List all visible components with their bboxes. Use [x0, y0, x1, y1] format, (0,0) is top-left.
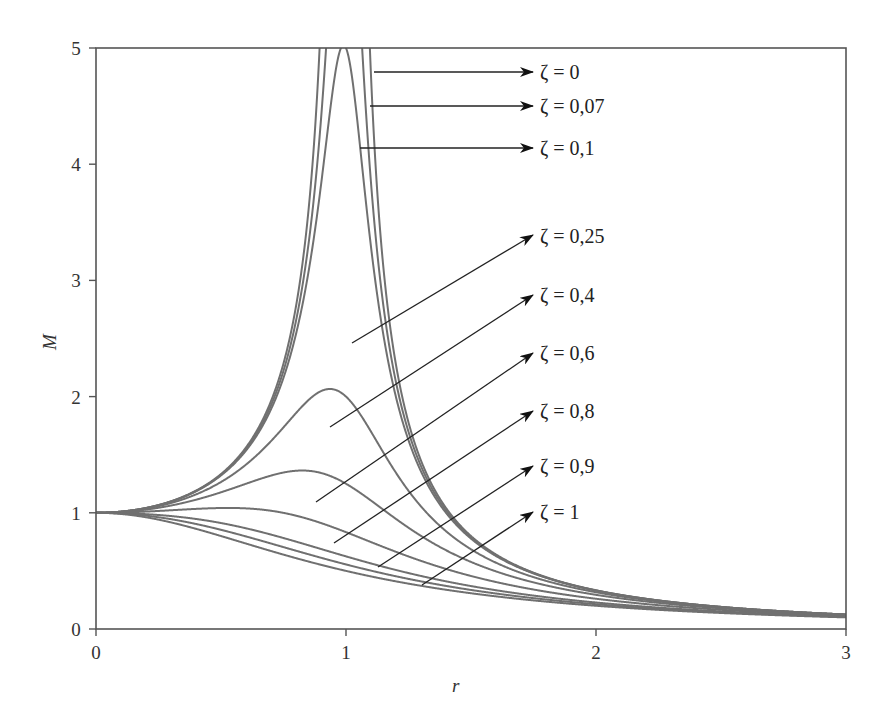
annotation-arrow [422, 512, 533, 585]
annotation-arrow [330, 295, 533, 427]
annotation-label: ζ = 0,25 [540, 225, 605, 248]
plot-frame [96, 48, 846, 629]
curve-series-2 [96, 45, 846, 614]
x-tick-label: 0 [91, 642, 101, 663]
annotation-label: ζ = 0,9 [540, 455, 595, 478]
y-tick-label: 5 [71, 38, 81, 59]
curves-group [96, 0, 846, 617]
annotation-label: ζ = 0 [540, 61, 580, 84]
y-tick-label: 0 [71, 619, 81, 640]
y-tick-label: 3 [71, 270, 81, 291]
y-axis: 012345 [71, 38, 96, 640]
annotation-label: ζ = 0,8 [540, 400, 595, 423]
curve-series-8 [96, 513, 846, 618]
y-axis-label: M [39, 333, 60, 351]
y-tick-label: 2 [71, 387, 81, 408]
annotation-arrow [352, 235, 533, 343]
annotation-label: ζ = 1 [540, 501, 580, 524]
x-tick-label: 3 [841, 642, 851, 663]
y-tick-label: 4 [71, 154, 81, 175]
x-tick-label: 1 [341, 642, 351, 663]
annotation-label: ζ = 0,07 [540, 95, 605, 118]
y-tick-label: 1 [71, 503, 81, 524]
curve-series-0 [96, 0, 846, 614]
x-axis: 0123 [91, 629, 851, 663]
curve-series-7 [96, 513, 846, 617]
annotation-arrow [334, 411, 533, 543]
annotation-label: ζ = 0,4 [540, 284, 595, 307]
chart: 012345 0123 r M ζ = 0ζ = 0,07ζ = 0,1ζ = … [0, 0, 876, 719]
annotation-label: ζ = 0,1 [540, 137, 595, 160]
curve-series-6 [96, 513, 846, 617]
curve-series-1 [96, 0, 846, 614]
curve-series-3 [96, 389, 846, 615]
x-axis-label: r [452, 675, 460, 696]
x-tick-label: 2 [591, 642, 601, 663]
annotation-label: ζ = 0,6 [540, 342, 595, 365]
